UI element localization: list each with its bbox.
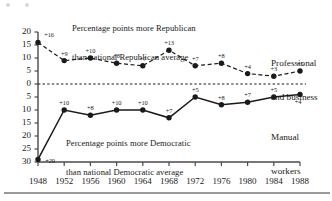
data-label-manual: +8 <box>81 104 99 111</box>
data-label-professional: +7 <box>134 55 152 62</box>
x-tick-label: 1980 <box>235 176 261 186</box>
data-label-professional: +13 <box>160 39 178 46</box>
data-point-markers <box>35 40 302 162</box>
y-tick-label: 10 <box>15 52 31 62</box>
x-tick-label: 1984 <box>261 176 287 186</box>
plot-canvas <box>0 0 332 201</box>
y-tick-label: 30 <box>15 156 31 166</box>
data-label-professional: +9 <box>55 50 73 57</box>
x-tick-label: 1988 <box>287 176 313 186</box>
x-tick-label: 1968 <box>156 176 182 186</box>
y-tick-label: 10 <box>15 104 31 114</box>
x-tick-label: 1960 <box>104 176 130 186</box>
data-label-professional: +8 <box>108 52 126 59</box>
data-label-professional: +16 <box>40 31 58 38</box>
data-label-professional: +5 <box>291 60 309 67</box>
x-tick-label: 1956 <box>77 176 103 186</box>
y-tick-label: 15 <box>15 117 31 127</box>
y-tick-label: 0 <box>15 78 31 88</box>
data-label-manual: +10 <box>134 99 152 106</box>
chart-figure: Percentage points more Republican than n… <box>0 0 332 201</box>
page-rule <box>4 192 330 194</box>
y-tick-label: 5 <box>15 65 31 75</box>
data-label-professional: +3 <box>265 65 283 72</box>
series-line-professional-and-business <box>38 42 300 76</box>
data-label-manual: +10 <box>108 99 126 106</box>
series-line-manual-workers <box>38 94 300 159</box>
data-label-manual: +4 <box>289 98 307 105</box>
x-tick-label: 1976 <box>208 176 234 186</box>
data-label-manual: +5 <box>265 86 283 93</box>
y-tick-label: 15 <box>15 39 31 49</box>
y-tick-label: 25 <box>15 143 31 153</box>
y-tick-label: 20 <box>15 130 31 140</box>
data-label-manual: +10 <box>55 99 73 106</box>
y-tick-label: 20 <box>15 26 31 36</box>
data-label-professional: +8 <box>212 52 230 59</box>
x-tick-label: 1952 <box>51 176 77 186</box>
data-label-manual: +7 <box>239 91 257 98</box>
data-label-manual: +8 <box>212 94 230 101</box>
data-label-manual: +29 <box>41 157 59 164</box>
data-label-professional: +10 <box>81 47 99 54</box>
data-label-professional: +4 <box>239 63 257 70</box>
x-tick-label: 1964 <box>130 176 156 186</box>
x-tick-label: 1972 <box>182 176 208 186</box>
y-tick-label: 5 <box>15 91 31 101</box>
data-label-manual: +7 <box>160 107 178 114</box>
data-label-manual: +5 <box>186 86 204 93</box>
x-tick-label: 1948 <box>25 176 51 186</box>
data-label-professional: +7 <box>186 55 204 62</box>
